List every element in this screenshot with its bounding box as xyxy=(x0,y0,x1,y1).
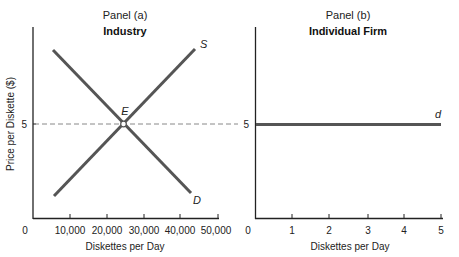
panel-b-x-tick-label: 4 xyxy=(401,225,407,236)
panel-a-y-tick-label: 5 xyxy=(21,119,27,130)
panel-a-title: Industry xyxy=(103,25,147,37)
chart-canvas: Panel (a) Industry Price per Diskette ($… xyxy=(0,0,459,257)
supply-label: S xyxy=(200,38,208,50)
panel-a-x-tick-label: 0 xyxy=(22,225,28,236)
panel-a-x-tick-label: 10,000 xyxy=(55,225,86,236)
demand-label: D xyxy=(193,194,201,206)
panel-b-label: Panel (b) xyxy=(326,9,371,21)
equilibrium-label: E xyxy=(121,105,129,117)
panel-a-x-tick-label: 50,000 xyxy=(201,225,232,236)
panel-b-x-tick-label: 5 xyxy=(438,225,444,236)
equilibrium-point xyxy=(121,121,127,127)
panel-b-title: Individual Firm xyxy=(309,25,387,37)
panel-a-x-axis-label: Diskettes per Day xyxy=(86,241,165,252)
firm-demand-label: d xyxy=(435,108,442,120)
panel-a-x-ticks xyxy=(70,214,218,218)
panel-b-x-axis-label: Diskettes per Day xyxy=(311,241,390,252)
panel-b-x-tick-label: 0 xyxy=(245,225,251,236)
panel-b-x-tick-label: 3 xyxy=(365,225,371,236)
y-axis-label: Price per Diskette ($) xyxy=(5,77,16,171)
panel-a-x-tick-label: 30,000 xyxy=(129,225,160,236)
panel-a-x-tick-label: 40,000 xyxy=(165,225,196,236)
panel-a-x-tick-label: 20,000 xyxy=(92,225,123,236)
panel-b-x-ticks xyxy=(292,214,441,218)
panel-b-y-tick-label: 5 xyxy=(243,119,249,130)
panel-b-x-tick-label: 2 xyxy=(326,225,332,236)
panel-b-x-tick-label: 1 xyxy=(289,225,295,236)
panel-a-label: Panel (a) xyxy=(103,9,148,21)
